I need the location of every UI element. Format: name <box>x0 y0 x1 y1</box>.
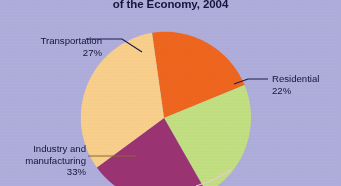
pie-label-industry-percent: 33% <box>4 166 86 178</box>
pie-label-residential-name: Residential <box>272 73 319 84</box>
pie-label-industry-name-line1: Industry and <box>33 143 86 154</box>
chart-canvas: of the Economy, 2004 Transportation 27% … <box>0 0 341 186</box>
pie-label-residential: Residential 22% <box>272 73 341 96</box>
pie-label-industry-manufacturing: Industry and manufacturing 33% <box>4 143 86 178</box>
pie-label-transportation: Transportation 27% <box>12 35 102 58</box>
pie-label-residential-percent: 22% <box>272 85 341 97</box>
pie-label-industry-name-line2: manufacturing <box>4 155 86 167</box>
pie-label-transportation-percent: 27% <box>12 47 102 59</box>
pie-label-transportation-name: Transportation <box>40 35 102 46</box>
